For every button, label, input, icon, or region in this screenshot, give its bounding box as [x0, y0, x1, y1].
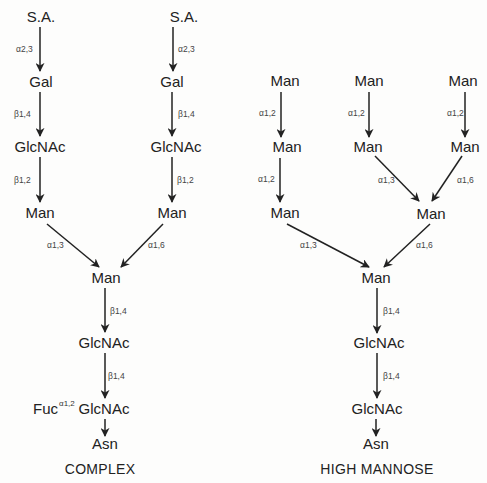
hm-glcnac-core1: GlcNAc [354, 334, 405, 351]
complex-glcnac-core1: GlcNAc [79, 334, 130, 351]
complex-gal-right: Gal [160, 73, 183, 90]
complex-fuc: Fuc [33, 400, 59, 417]
glycan-structures-diagram: S.A. α2,3 Gal β1,4 GlcNAc β1,2 Man S.A. … [0, 0, 487, 483]
hm-link-branch-core: α1,6 [416, 240, 433, 250]
complex-man-core: Man [91, 269, 120, 286]
hm-man-b2: Man [353, 138, 382, 155]
hm-man-b1: Man [354, 72, 383, 89]
hm-man-a1: Man [270, 72, 299, 89]
hm-link-a3-core: α1,3 [300, 240, 317, 250]
hm-man-core: Man [361, 269, 390, 286]
hm-man-c2: Man [450, 138, 479, 155]
high-mannose-structure: Man α1,2 Man α1,2 Man Man α1,2 Man Man α… [258, 72, 480, 477]
hm-link-b2-branch: α1,3 [378, 175, 395, 185]
complex-link-sa-gal-right: α2,3 [178, 44, 195, 54]
hm-link-c1-c2: α1,2 [447, 108, 464, 118]
hm-link-b1-b2: α1,2 [348, 108, 365, 118]
hm-man-branch: Man [416, 205, 445, 222]
complex-link-man-core-right: α1,6 [148, 240, 165, 250]
complex-glcnac-core2: GlcNAc [79, 400, 130, 417]
complex-link-glcnac-man-right: β1,2 [177, 175, 194, 185]
hm-link-c2-branch: α1,6 [457, 175, 474, 185]
complex-man-right: Man [157, 204, 186, 221]
complex-link-fuc-glcnac: α1,2 [59, 399, 75, 408]
complex-sa-right: S.A. [170, 8, 198, 25]
hm-man-c1: Man [448, 72, 477, 89]
complex-link-glcnac-glcnac: β1,4 [108, 371, 125, 381]
high-mannose-title: HIGH MANNOSE [320, 461, 433, 477]
hm-glcnac-core2: GlcNAc [352, 400, 403, 417]
complex-link-sa-gal-left: α2,3 [16, 44, 33, 54]
complex-gal-left: Gal [29, 73, 52, 90]
complex-sa-left: S.A. [27, 8, 55, 25]
complex-glcnac-left: GlcNAc [15, 138, 66, 155]
hm-link-man-glcnac: β1,4 [383, 306, 400, 316]
hm-link-a2-a3: α1,2 [258, 174, 275, 184]
hm-link-a1-a2: α1,2 [259, 108, 276, 118]
hm-asn: Asn [363, 435, 389, 452]
complex-glcnac-right: GlcNAc [151, 138, 202, 155]
complex-link-man-glcnac: β1,4 [110, 306, 127, 316]
hm-link-glcnac-glcnac: β1,4 [383, 371, 400, 381]
hm-man-a2: Man [272, 138, 301, 155]
complex-structure: S.A. α2,3 Gal β1,4 GlcNAc β1,2 Man S.A. … [14, 8, 202, 477]
hm-man-a3: Man [270, 204, 299, 221]
complex-title: COMPLEX [65, 461, 136, 477]
complex-link-gal-glcnac-left: β1,4 [14, 109, 31, 119]
complex-man-left: Man [25, 204, 54, 221]
complex-asn: Asn [92, 435, 118, 452]
complex-link-glcnac-man-left: β1,2 [14, 175, 31, 185]
complex-link-man-core-left: α1,3 [47, 240, 64, 250]
complex-link-gal-glcnac-right: β1,4 [178, 109, 195, 119]
diagram-canvas: S.A. α2,3 Gal β1,4 GlcNAc β1,2 Man S.A. … [0, 0, 487, 483]
